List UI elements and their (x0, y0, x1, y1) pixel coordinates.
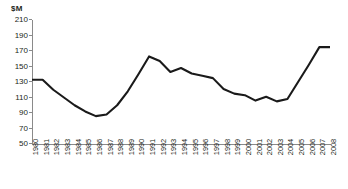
x-tick-1997: 1997 (208, 146, 218, 186)
x-tick-1980: 1980 (27, 146, 37, 186)
y-tick-label-170: 170 (4, 47, 28, 55)
y-tick-label-90: 90 (4, 109, 28, 117)
line-chart: $M 210190170150130110907050 198019811982… (0, 0, 348, 189)
x-tick-2006: 2006 (304, 146, 314, 186)
x-tick-1984: 1984 (70, 146, 80, 186)
x-tick-1992: 1992 (155, 146, 165, 186)
y-tick-label-210: 210 (4, 16, 28, 24)
y-axis-unit-label: $M (11, 4, 23, 13)
x-tick-2001: 2001 (251, 146, 261, 186)
y-tick-label-50: 50 (4, 140, 28, 148)
x-tick-1990: 1990 (133, 146, 143, 186)
x-tick-1995: 1995 (187, 146, 197, 186)
y-tick-label-70: 70 (4, 125, 28, 133)
y-tick-label-130: 130 (4, 78, 28, 86)
plot-area (32, 20, 330, 144)
x-tick-2007: 2007 (314, 146, 324, 186)
y-tick-label-110: 110 (4, 94, 28, 102)
x-tick-label-2008: 2008 (330, 139, 338, 155)
x-tick-2002: 2002 (261, 146, 271, 186)
x-tick-1994: 1994 (176, 146, 186, 186)
x-tick-1987: 1987 (102, 146, 112, 186)
series-line-value (32, 47, 330, 116)
x-tick-1999: 1999 (229, 146, 239, 186)
x-tick-1993: 1993 (165, 146, 175, 186)
x-tick-1982: 1982 (48, 146, 58, 186)
x-tick-1981: 1981 (38, 146, 48, 186)
x-tick-2008: 2008 (325, 146, 335, 186)
y-tick-label-150: 150 (4, 63, 28, 71)
x-tick-1986: 1986 (91, 146, 101, 186)
x-tick-1998: 1998 (219, 146, 229, 186)
y-tick-label-190: 190 (4, 32, 28, 40)
x-tick-2003: 2003 (272, 146, 282, 186)
x-tick-2005: 2005 (293, 146, 303, 186)
x-tick-1996: 1996 (197, 146, 207, 186)
x-tick-1983: 1983 (59, 146, 69, 186)
series-svg (32, 20, 330, 144)
x-axis-ticks: 1980198119821983198419851986198719881989… (32, 146, 331, 189)
x-tick-1988: 1988 (112, 146, 122, 186)
x-tick-1991: 1991 (144, 146, 154, 186)
x-tick-2004: 2004 (282, 146, 292, 186)
x-tick-1985: 1985 (80, 146, 90, 186)
x-tick-1989: 1989 (123, 146, 133, 186)
x-tick-2000: 2000 (240, 146, 250, 186)
